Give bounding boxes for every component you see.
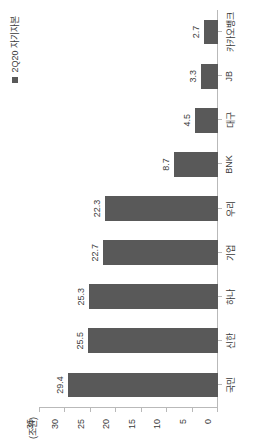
chart-legend: 2Q20 자기자본 — [8, 16, 21, 83]
bar-item[interactable]: 3.3JB — [40, 54, 218, 98]
category-tick — [218, 119, 222, 120]
legend-square-marker — [12, 77, 18, 83]
bar-value-label: 8.7 — [161, 158, 171, 171]
category-tick — [218, 31, 222, 32]
bar-item[interactable]: 22.3우리 — [40, 186, 218, 230]
rotated-chart-wrapper: 2Q20 자기자본 (조원) 05101520253035 29.4국민25.5… — [0, 0, 260, 443]
bar-item[interactable]: 8.7BNK — [40, 142, 218, 186]
bar-value-label: 25.5 — [75, 332, 85, 350]
bar-value-label: 25.3 — [76, 288, 86, 306]
y-axis-tick-label: 30 — [50, 419, 60, 429]
bar-item[interactable]: 4.5대구 — [40, 98, 218, 142]
y-axis-tick: 20 — [115, 407, 116, 412]
category-label: BNK — [224, 155, 234, 174]
y-axis-tick-label: 0 — [203, 419, 213, 424]
y-axis-tick-label: 10 — [152, 419, 162, 429]
y-axis-tick-label: 35 — [25, 419, 35, 429]
y-axis-tick-label: 25 — [76, 419, 86, 429]
y-axis-tick: 35 — [39, 407, 40, 412]
y-axis-tick-label: 20 — [101, 419, 111, 429]
bar-value-label: 2.7 — [191, 26, 201, 39]
bar[interactable] — [105, 196, 218, 221]
plot-area: 05101520253035 29.4국민25.5신한25.3하나22.7기업2… — [40, 10, 218, 407]
legend-label: 2Q20 자기자본 — [8, 16, 21, 73]
bar-value-label: 3.3 — [188, 70, 198, 83]
category-label: 신한 — [224, 333, 237, 349]
y-axis-tick-label: 5 — [178, 419, 188, 424]
bar[interactable] — [201, 64, 218, 89]
category-tick — [218, 75, 222, 76]
y-axis-tick: 25 — [90, 407, 91, 412]
category-tick — [218, 163, 222, 164]
bar-value-label: 4.5 — [182, 114, 192, 127]
bar-value-label: 22.3 — [92, 200, 102, 218]
bar[interactable] — [195, 108, 218, 133]
bar[interactable] — [204, 20, 218, 45]
category-label: 우리 — [224, 201, 237, 217]
bar-value-label: 22.7 — [90, 244, 100, 262]
bar-item[interactable]: 25.5신한 — [40, 319, 218, 363]
y-axis-tick: 5 — [192, 407, 193, 412]
category-label: 카카오뱅크 — [224, 12, 237, 52]
category-tick — [218, 208, 222, 209]
bar-item[interactable]: 22.7기업 — [40, 231, 218, 275]
category-tick — [218, 384, 222, 385]
bar-chart: 2Q20 자기자본 (조원) 05101520253035 29.4국민25.5… — [0, 0, 260, 443]
y-axis-tick-label: 15 — [127, 419, 137, 429]
bar[interactable] — [103, 240, 218, 265]
category-label: 기업 — [224, 245, 237, 261]
bar-value-label: 29.4 — [55, 376, 65, 394]
y-axis-tick: 15 — [141, 407, 142, 412]
y-axis-tick: 30 — [64, 407, 65, 412]
bar[interactable] — [68, 373, 218, 398]
bar[interactable] — [89, 284, 218, 309]
category-tick — [218, 252, 222, 253]
bar-item[interactable]: 25.3하나 — [40, 275, 218, 319]
bar[interactable] — [174, 152, 218, 177]
category-tick — [218, 340, 222, 341]
category-label: 하나 — [224, 289, 237, 305]
y-axis-tick: 10 — [166, 407, 167, 412]
bar-item[interactable]: 2.7카카오뱅크 — [40, 10, 218, 54]
category-label: 국민 — [224, 377, 237, 393]
bar[interactable] — [88, 329, 218, 354]
bar-item[interactable]: 29.4국민 — [40, 363, 218, 407]
bar-group: 29.4국민25.5신한25.3하나22.7기업22.3우리8.7BNK4.5대… — [40, 10, 218, 407]
category-label: JB — [224, 71, 234, 82]
category-label: 대구 — [224, 112, 237, 128]
y-axis-tick: 0 — [217, 407, 218, 412]
category-tick — [218, 296, 222, 297]
